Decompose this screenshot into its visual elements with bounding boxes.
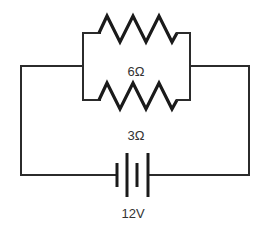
resistor-3-ohm-label: 3Ω [128,128,145,143]
outer-wires [21,66,249,175]
battery-12v: 12V [117,153,148,221]
battery-label: 12V [121,206,144,221]
resistor-3-ohm: 3Ω [83,83,190,143]
left-wire [21,66,116,175]
resistor-6-ohm-label: 6Ω [128,64,145,79]
circuit-diagram: 6Ω 3Ω 12V [0,0,266,232]
right-wire [149,66,249,175]
resistor-6-ohm: 6Ω [83,16,190,79]
